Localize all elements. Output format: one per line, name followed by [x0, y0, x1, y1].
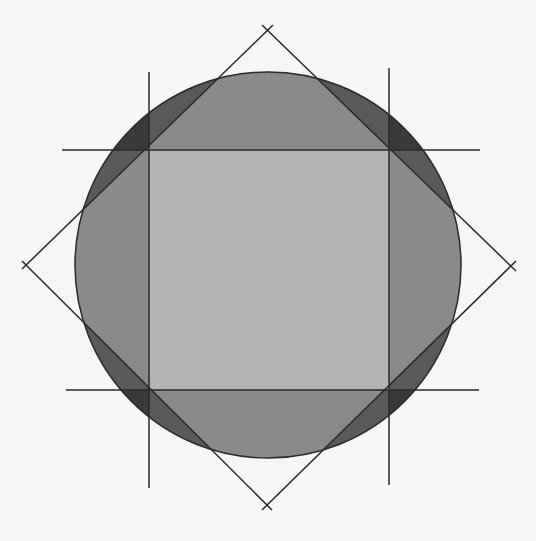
inscribed-square	[149, 150, 389, 390]
geometry-figure	[0, 0, 536, 541]
diagram-canvas	[0, 0, 536, 541]
